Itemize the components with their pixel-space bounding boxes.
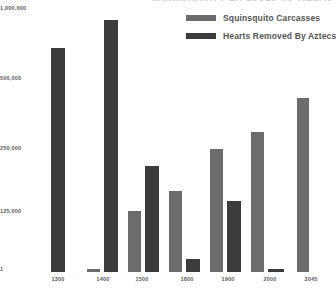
bar-group[interactable] (294, 0, 333, 272)
bar-series-0[interactable] (128, 211, 141, 272)
x-axis-tick-label: 2000 (258, 276, 282, 282)
bar-series-0[interactable] (210, 149, 223, 272)
bar-series-0[interactable] (169, 191, 182, 272)
bar-group[interactable] (250, 0, 289, 272)
y-axis-tick-label: 125,000 (0, 208, 42, 215)
x-axis-tick-label: 1900 (216, 276, 240, 282)
bar-series-1[interactable] (186, 259, 200, 272)
x-axis-tick-label: 2045 (299, 276, 323, 282)
bar-group[interactable] (45, 0, 84, 272)
bar-group[interactable] (127, 0, 166, 272)
bar-series-1[interactable] (227, 201, 241, 272)
bar-series-0[interactable] (87, 269, 100, 272)
bar-series-1[interactable] (268, 269, 284, 272)
bar-series-1[interactable] (104, 20, 118, 272)
bar-series-1[interactable] (51, 48, 65, 272)
bar-group[interactable] (86, 0, 125, 272)
y-axis-tick-label: 1,000,000 (0, 5, 42, 12)
x-axis-tick-label: 1800 (175, 276, 199, 282)
bar-series-1[interactable] (145, 166, 159, 272)
x-axis-tick-label: 1500 (130, 276, 154, 282)
y-axis-tick-label: 1 (0, 266, 42, 273)
x-axis-tick-label: 1400 (91, 276, 115, 282)
y-axis-tick-label: 250,000 (0, 145, 42, 152)
x-axis-tick-label: 1300 (46, 276, 70, 282)
bar-group[interactable] (168, 0, 207, 272)
y-axis-tick-label: 500,000 (0, 75, 42, 82)
bar-group[interactable] (209, 0, 248, 272)
plot-area: 1300140015001800190020002045 (45, 0, 334, 272)
bar-series-0[interactable] (297, 98, 309, 272)
bar-series-0[interactable] (251, 132, 264, 272)
